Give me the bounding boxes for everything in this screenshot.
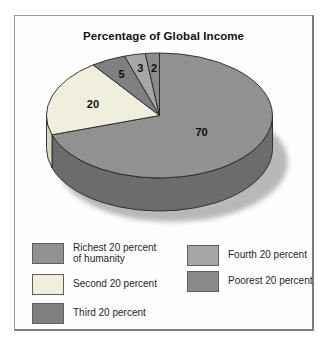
legend-label: Second 20 percent	[73, 279, 157, 290]
legend-item-third: Third 20 percent	[32, 303, 146, 324]
pie-slice-label: 70	[195, 126, 207, 138]
legend-label-line: Poorest 20 percent	[228, 276, 313, 287]
legend-swatch	[32, 274, 64, 295]
legend-item-fourth: Fourth 20 percent	[187, 245, 307, 266]
legend-item-richest: Richest 20 percent of humanity	[32, 243, 156, 264]
pie-slice-label: 20	[87, 98, 99, 110]
legend-swatch	[32, 303, 64, 324]
legend-swatch	[187, 271, 219, 292]
legend-label-line: Fourth 20 percent	[228, 250, 307, 261]
pie-slice-label: 3	[137, 62, 143, 74]
legend-label-line: Second 20 percent	[73, 279, 157, 290]
pie-slice-label: 2	[151, 62, 157, 74]
legend-swatch	[187, 245, 219, 266]
legend-label-line: of humanity	[73, 254, 156, 265]
legend-label: Third 20 percent	[73, 308, 146, 319]
legend-swatch	[32, 243, 64, 264]
legend-label-line: Richest 20 percent	[73, 243, 156, 254]
legend-label-line: Third 20 percent	[73, 308, 146, 319]
legend-item-poorest: Poorest 20 percent	[187, 271, 313, 292]
legend-label: Richest 20 percent of humanity	[73, 243, 156, 264]
pie-slice-label: 5	[118, 68, 124, 80]
legend-item-second: Second 20 percent	[32, 274, 157, 295]
figure-canvas: Percentage of Global Income 7020532 Rich…	[0, 0, 328, 345]
legend-label: Fourth 20 percent	[228, 250, 307, 261]
legend-label: Poorest 20 percent	[228, 276, 313, 287]
